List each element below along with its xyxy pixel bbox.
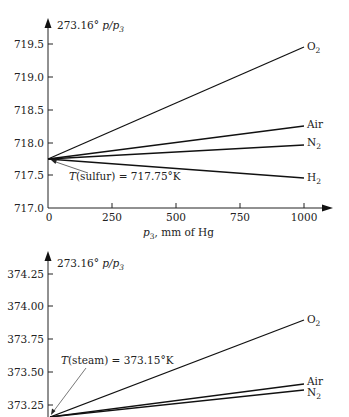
top-xtick-label: 750 — [230, 211, 250, 223]
top-y-axis-arrow-icon — [45, 18, 52, 28]
top-ytick-label: 719.0 — [14, 71, 44, 83]
bottom-series-n2-label: N2 — [307, 386, 321, 401]
top-ytick-label: 717.5 — [14, 169, 44, 181]
bottom-ytick-label: 374.25 — [7, 268, 44, 280]
top-annotation-arrow-icon — [51, 160, 57, 165]
bottom-y-ticks: 374.25 374.00 373.75 373.50 373.25 — [7, 268, 53, 411]
top-y-ticks: 719.5 719.0 718.5 718.0 717.5 717.0 — [14, 38, 53, 214]
top-x-axis-label: p3, mm of Hg — [143, 226, 214, 241]
top-x-ticks: 0 250 500 750 1000 — [46, 203, 318, 223]
bottom-series-o2-label: O2 — [307, 313, 321, 328]
top-series-n2-line — [48, 145, 304, 159]
bottom-ytick-label: 373.50 — [7, 366, 44, 378]
top-annotation-text: T(sulfur) = 717.75°K — [69, 170, 181, 182]
bottom-series-n2-line — [50, 390, 304, 417]
bottom-series-o2-line — [50, 320, 304, 417]
top-y-axis-label: 273.16° p/p3 — [57, 19, 124, 34]
top-xtick-label: 1000 — [291, 211, 318, 223]
top-xtick-label: 500 — [166, 211, 186, 223]
top-series-air-label: Air — [306, 118, 324, 130]
top-xtick-label: 0 — [46, 211, 53, 223]
top-ytick-label: 718.5 — [14, 104, 44, 116]
bottom-ytick-label: 374.00 — [7, 300, 44, 312]
chart-canvas: 719.5 719.0 718.5 718.0 717.5 717.0 0 25… — [0, 0, 349, 417]
bottom-ytick-label: 373.75 — [7, 333, 44, 345]
bottom-series-air-line — [50, 384, 304, 417]
bottom-y-axis-arrow-icon — [45, 251, 52, 261]
bottom-chart: 374.25 374.00 373.75 373.50 373.25 273.1… — [7, 251, 324, 417]
bottom-annotation-text: T(steam) = 373.15°K — [61, 354, 174, 366]
top-series-n2-label: N2 — [307, 136, 321, 151]
top-ytick-label: 718.0 — [14, 137, 44, 149]
top-chart: 719.5 719.0 718.5 718.0 717.5 717.0 0 25… — [14, 18, 333, 241]
top-x-axis-arrow-icon — [322, 205, 333, 212]
top-ytick-label: 719.5 — [14, 38, 44, 50]
bottom-y-axis-label: 273.16° p/p3 — [57, 257, 124, 272]
top-xtick-label: 250 — [102, 211, 122, 223]
top-ytick-label: 717.0 — [14, 202, 44, 214]
top-series-h2-label: H2 — [307, 171, 321, 186]
bottom-ytick-label: 373.25 — [7, 399, 44, 411]
top-series-o2-label: O2 — [307, 40, 321, 55]
